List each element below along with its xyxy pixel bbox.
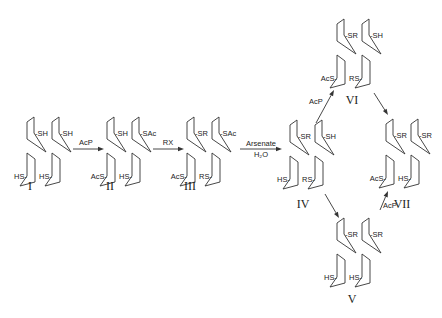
structure-II: -SH-SAcAcS-HS-	[91, 117, 157, 186]
group-upper-right: -SR	[419, 131, 433, 140]
reagent-label: Arsenate	[246, 139, 276, 148]
arrow-V-VII: AcP	[380, 191, 397, 210]
group-upper-right: -SR	[370, 230, 384, 239]
arrow-II-III: RX	[153, 138, 184, 151]
group-lower-left: HS-	[14, 172, 27, 181]
arrow-I-II: AcP	[73, 138, 104, 151]
reagent-label-secondary: H₂O	[254, 150, 268, 159]
arrowhead-icon	[276, 147, 282, 151]
group-lower-right: HS-	[119, 172, 132, 181]
group-upper-right: -SH	[60, 129, 73, 138]
structure-label-IV: IV	[297, 197, 310, 211]
group-lower-right: HS-	[349, 273, 362, 282]
structure-IV: -SR-SHHS-RS-	[277, 120, 336, 189]
group-upper-right: -SH	[323, 132, 336, 141]
group-lower-left: HS-	[277, 175, 290, 184]
structure-label-V: V	[348, 292, 357, 306]
arrow-IV-VI: AcP	[309, 90, 334, 123]
group-upper-right: -SAc	[220, 129, 237, 138]
arrow-III-IV: ArsenateH₂O	[240, 139, 282, 159]
group-lower-right: HS-	[398, 174, 411, 183]
reagent-label: AcP	[79, 138, 93, 147]
structure-label-I: I	[28, 179, 32, 193]
group-lower-left: AcS-	[321, 74, 338, 83]
group-lower-left: HS-	[324, 273, 337, 282]
arrowhead-icon	[383, 109, 388, 115]
arrowhead-icon	[98, 147, 104, 151]
arrowhead-icon	[329, 90, 334, 96]
structure-V: -SR-SRHS-HS-	[324, 218, 383, 287]
group-upper-right: -SH	[370, 31, 383, 40]
arrow-shaft	[325, 194, 336, 213]
reagent-label: AcP	[383, 201, 397, 210]
reagent-label: RX	[163, 138, 173, 147]
group-upper-left: -SR	[195, 129, 209, 138]
arrowhead-icon	[384, 191, 388, 197]
group-upper-left: -SR	[394, 131, 408, 140]
arrowhead-icon	[178, 147, 184, 151]
structure-label-III: III	[184, 179, 196, 193]
group-upper-right: -SAc	[140, 129, 157, 138]
reaction-scheme-diagram: -SH-SHHS-HS-I-SH-SAcAcS-HS-II-SR-SAcAcS-…	[0, 0, 442, 318]
arrow-VI-VII	[374, 93, 388, 115]
group-lower-left: AcS-	[91, 172, 108, 181]
group-lower-right: RS-	[302, 175, 315, 184]
group-upper-left: -SR	[345, 31, 359, 40]
structure-label-II: II	[106, 179, 114, 193]
arrow-shaft	[374, 93, 385, 110]
structure-I: -SH-SHHS-HS-	[14, 117, 73, 186]
group-upper-left: -SR	[345, 230, 359, 239]
structures-layer: -SH-SHHS-HS-I-SH-SAcAcS-HS-II-SR-SAcAcS-…	[14, 19, 432, 306]
group-upper-left: -SH	[35, 129, 48, 138]
arrowhead-icon	[334, 212, 339, 218]
group-lower-right: HS-	[39, 172, 52, 181]
reagent-label: AcP	[309, 97, 323, 106]
group-upper-left: -SH	[115, 129, 128, 138]
group-lower-left: AcS-	[370, 174, 387, 183]
structure-label-VI: VI	[346, 93, 359, 107]
group-lower-right: RS-	[199, 172, 212, 181]
structure-VII: -SR-SRAcS-HS-	[370, 119, 433, 188]
arrows-layer: AcPRXArsenateH₂OAcPAcP	[73, 90, 397, 218]
group-upper-left: -SR	[298, 132, 312, 141]
group-lower-right: RS-	[349, 74, 362, 83]
arrow-IV-V	[325, 194, 339, 218]
structure-III: -SR-SAcAcS-RS-	[171, 117, 237, 186]
structure-VI: -SR-SHAcS-RS-	[321, 19, 383, 88]
